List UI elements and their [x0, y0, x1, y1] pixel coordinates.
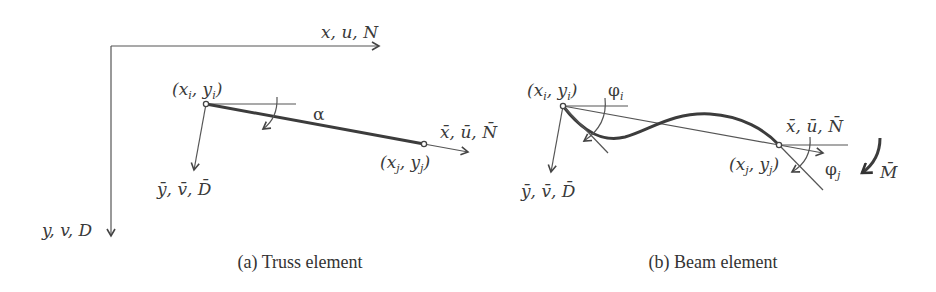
panel-truss: x, u, N y, v, D (xi, yi) (xj, yj) α x̄, … [41, 22, 498, 273]
rotation-i-label: φi [608, 80, 623, 103]
local-y-axis-arrow [551, 106, 563, 172]
node-i [203, 101, 208, 106]
local-x-label: x̄, ū, N̄ [440, 121, 498, 142]
moment-arrow [862, 138, 880, 173]
node-j-label: (xj, yj) [380, 152, 430, 175]
caption-truss: (a) Truss element [238, 252, 363, 273]
node-i-label: (xi, yi) [527, 80, 577, 103]
node-i [560, 103, 565, 108]
local-y-axis-arrow [194, 104, 206, 170]
local-y-label: ȳ, v̄, D̄ [156, 178, 212, 199]
truss-beam-element-diagram: x, u, N y, v, D (xi, yi) (xj, yj) α x̄, … [0, 0, 936, 292]
local-x-label: x̄, ū, N̄ [786, 115, 844, 136]
node-j-label: (xj, yj) [729, 154, 779, 177]
global-y-axis-label: y, v, D [41, 220, 93, 240]
caption-beam: (b) Beam element [649, 252, 778, 273]
angle-alpha-label: α [313, 104, 325, 124]
node-j [421, 141, 426, 146]
angle-alpha-arc [263, 97, 277, 129]
moment-label: M̄ [879, 161, 898, 182]
local-y-label: ȳ, v̄, D̄ [520, 180, 576, 201]
global-x-axis-label: x, u, N [321, 22, 379, 42]
node-i-label: (xi, yi) [172, 79, 222, 102]
panel-beam: (xi, yi) (xj, yj) φi φj M̄ x̄, ū, N̄ ȳ, … [520, 80, 898, 273]
local-x-axis-arrow [424, 144, 468, 152]
node-j [776, 142, 781, 147]
rotation-j-label: φj [825, 159, 841, 182]
